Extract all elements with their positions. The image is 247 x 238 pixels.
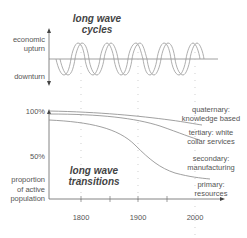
top-title: long wave cycles	[62, 13, 132, 35]
y-label-upturn: economic upturn	[0, 35, 45, 53]
label-line: knowledge based	[175, 114, 247, 123]
label-line: resources	[175, 189, 247, 198]
label-line: tertiary: white	[175, 128, 247, 137]
label-line: manufacturing	[175, 163, 247, 172]
series-label-tertiary: tertiary: white collar services	[175, 128, 247, 146]
arrow-down-icon	[47, 81, 51, 86]
label-economic: economic	[0, 35, 45, 44]
label-line: proportion	[0, 175, 45, 185]
label-line: population	[0, 194, 45, 204]
x-tick-2000: 2000	[180, 213, 210, 222]
y-label-proportion: proportion of active population	[0, 175, 45, 204]
top-title-line2: cycles	[62, 24, 132, 35]
x-tick-1800: 1800	[66, 213, 96, 222]
label-line: primary:	[175, 180, 247, 189]
label-line: of active	[0, 185, 45, 195]
label-line: collar services	[175, 137, 247, 146]
top-title-line1: long wave	[62, 13, 132, 24]
label-upturn: upturn	[0, 44, 45, 53]
label-line: secondary:	[175, 154, 247, 163]
y-label-downturn: downturn	[0, 72, 45, 81]
series-label-secondary: secondary: manufacturing	[175, 154, 247, 172]
series-label-primary: primary: resources	[175, 180, 247, 198]
bottom-title-line1: long wave	[64, 165, 124, 176]
bottom-title: long wave transitions	[64, 165, 124, 187]
arrow-up-icon	[47, 28, 51, 33]
arrow-up-icon	[47, 109, 51, 114]
y-tick-100: 100%	[0, 107, 45, 116]
bottom-title-line2: transitions	[64, 176, 124, 187]
y-tick-50: 50%	[0, 152, 45, 161]
series-label-quaternary: quaternary: knowledge based	[175, 105, 247, 123]
label-line: quaternary:	[175, 105, 247, 114]
x-tick-1900: 1900	[123, 213, 153, 222]
